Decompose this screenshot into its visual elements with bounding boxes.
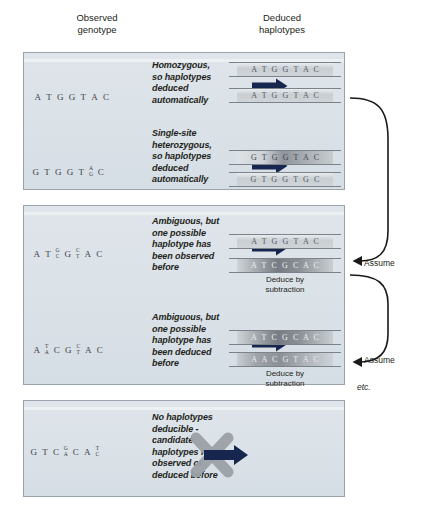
genotype-base: A — [32, 92, 44, 102]
genotype-base: C — [101, 92, 112, 102]
ambiguous-base-bottom: A — [64, 452, 69, 458]
genotype-row-3: ATGCGCTAC — [31, 248, 105, 259]
genotype-base: C — [51, 447, 62, 457]
haplotype-bar-row1-a: A T G G T A C — [237, 63, 333, 76]
genotype-base: T — [43, 249, 54, 259]
assume-label-1: Assume — [364, 258, 395, 268]
etc-label: etc. — [357, 382, 371, 392]
blocked-deduction-arrow-row-5 — [188, 432, 260, 480]
genotype-base: T — [44, 92, 55, 102]
genotype-base: T — [78, 92, 89, 102]
haplotype-bar-row1-b: A T G G T A C — [237, 89, 333, 102]
ambiguous-base: CT — [74, 248, 82, 259]
ambiguous-base-bottom: T — [77, 350, 81, 356]
genotype-base: G — [63, 345, 75, 355]
caption-row-1: Homozygous, so haplotypes deduced automa… — [152, 60, 248, 106]
genotype-base: G — [28, 447, 40, 457]
genotype-base: A — [83, 345, 95, 355]
genotype-row-5: GTCGACATC — [28, 446, 102, 457]
genotype-base: G — [53, 167, 65, 177]
ambiguous-base: GA — [62, 446, 71, 457]
genotype-base: G — [64, 167, 76, 177]
assume-curve-1 — [348, 95, 398, 270]
hap-rule — [229, 164, 341, 165]
haplotype-bar-row4-b: A A C G T A C — [237, 353, 333, 366]
haplotype-bar-row2-a: G T G G T A C — [237, 151, 333, 164]
ambiguous-base-bottom: C — [56, 254, 60, 260]
hap-rule — [229, 344, 341, 345]
hap-rule — [229, 366, 341, 367]
genotype-base: G — [55, 92, 67, 102]
genotype-base: A — [82, 447, 94, 457]
genotype-row-1: ATGGTAC — [32, 92, 112, 102]
column-header-observed-genotype: Observed genotype — [52, 12, 142, 35]
ambiguous-base: AG — [87, 166, 96, 177]
hap-rule — [229, 102, 341, 103]
genotype-base: A — [89, 92, 101, 102]
ambiguous-base-bottom: C — [95, 452, 99, 458]
genotype-base: C — [95, 167, 106, 177]
hap-rule — [229, 272, 341, 273]
caption-row-2: Single-site heterozygous, so haplotypes … — [152, 128, 248, 186]
genotype-base: C — [51, 345, 62, 355]
ambiguous-base-bottom: T — [76, 254, 80, 260]
genotype-base: C — [94, 345, 105, 355]
hap-rule — [229, 76, 341, 77]
ambiguous-base: CT — [74, 344, 82, 355]
genotype-base: T — [76, 167, 87, 177]
genotype-base: C — [70, 447, 81, 457]
haplotype-bar-row3-a: A T G G T A C — [237, 235, 333, 248]
column-header-deduced-haplotypes: Deduced haplotypes — [232, 12, 332, 35]
deduce-note-row-3: Deduce by subtraction — [230, 275, 340, 295]
genotype-base: T — [40, 447, 51, 457]
genotype-base: G — [66, 92, 78, 102]
genotype-base: T — [42, 167, 53, 177]
ambiguous-base: TA — [43, 344, 52, 355]
haplotype-bar-row4-a: A T C G C A C — [237, 331, 333, 344]
genotype-base: A — [82, 249, 94, 259]
hap-rule — [229, 248, 341, 249]
haplotype-bar-row3-b: A T C G C A C — [237, 259, 333, 272]
deduce-note-row-4: Deduce by subtraction — [230, 369, 340, 389]
genotype-base: G — [30, 167, 42, 177]
haplotype-bar-row2-b: G T G G T G C — [237, 173, 333, 186]
figure-canvas: Observed genotype Deduced haplotypes ATG… — [0, 0, 429, 516]
genotype-base: A — [31, 345, 43, 355]
genotype-base: C — [94, 249, 105, 259]
genotype-base: A — [31, 249, 43, 259]
ambiguous-base: TC — [93, 446, 101, 457]
ambiguous-base: GC — [54, 248, 63, 259]
ambiguous-base-bottom: A — [45, 350, 50, 356]
assume-label-2: Assume — [364, 355, 395, 365]
genotype-row-4: ATACGCTAC — [31, 344, 106, 355]
ambiguous-base-bottom: G — [89, 172, 94, 178]
genotype-base: G — [62, 249, 74, 259]
genotype-row-2: GTGGTAGC — [30, 166, 107, 177]
hap-rule — [229, 186, 341, 187]
